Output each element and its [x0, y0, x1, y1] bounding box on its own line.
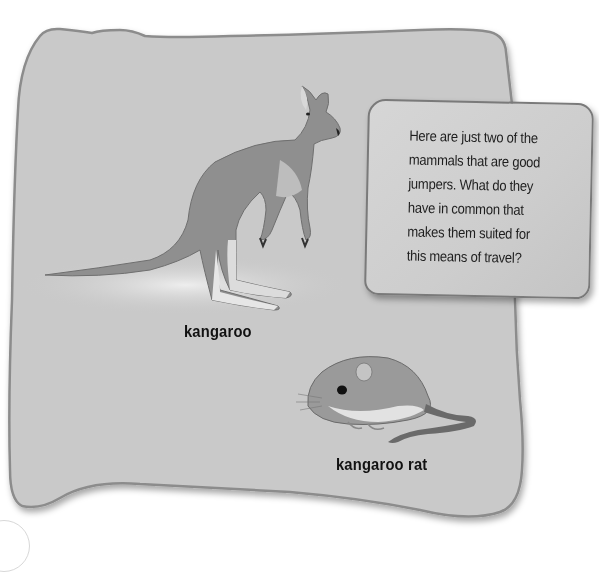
- question-callout-text: Here are just two of the mammals that ar…: [407, 124, 572, 271]
- kangaroo-rat-illustration: [288, 346, 478, 446]
- kangaroo-rat-label: kangaroo rat: [336, 456, 427, 474]
- kangaroo-label: kangaroo: [184, 323, 252, 341]
- kangaroo-illustration: [40, 80, 345, 315]
- question-callout-card: Here are just two of the mammals that ar…: [364, 99, 594, 300]
